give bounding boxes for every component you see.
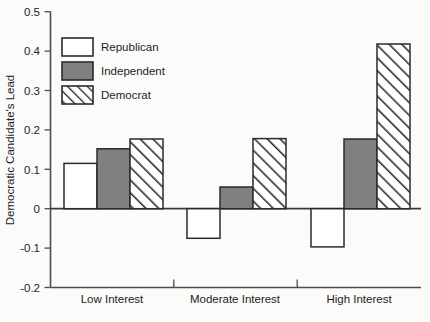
bar-moderate-interest-independent	[220, 187, 253, 209]
chart-svg: -0.2 -0.1 0 0.1 0.2 0.3 0.4 0.5 Democrat…	[0, 0, 430, 322]
bar-low-interest-republican	[64, 163, 97, 208]
y-tick-label: 0.4	[24, 45, 41, 57]
bar-high-interest-republican	[311, 209, 344, 247]
bar-moderate-interest-democrat	[253, 139, 286, 209]
y-tick-label: 0.3	[24, 85, 40, 97]
bar-low-interest-independent	[97, 149, 130, 209]
legend-swatch-independent	[62, 62, 93, 80]
bar-high-interest-independent	[344, 139, 377, 209]
x-category-label-high-interest: High Interest	[326, 293, 392, 305]
legend-label-independent: Independent	[101, 65, 166, 77]
y-tick-label: -0.1	[20, 242, 40, 254]
legend-label-republican: Republican	[101, 41, 159, 53]
bar-high-interest-democrat	[377, 44, 410, 209]
y-tick-label: -0.2	[20, 282, 40, 294]
bar-chart: -0.2 -0.1 0 0.1 0.2 0.3 0.4 0.5 Democrat…	[0, 0, 430, 322]
bar-low-interest-democrat	[130, 139, 163, 209]
legend-label-democrat: Democrat	[101, 89, 152, 101]
legend-swatch-republican	[62, 38, 93, 56]
y-axis-title: Democratic Candidate's Lead	[4, 75, 16, 226]
x-category-label-low-interest: Low Interest	[81, 293, 144, 305]
bar-moderate-interest-republican	[187, 209, 220, 239]
y-tick-label: 0.5	[24, 6, 40, 18]
legend: Republican Independent Democrat	[62, 38, 166, 104]
y-tick-label: 0.1	[24, 164, 40, 176]
y-tick-label: 0.2	[24, 124, 40, 136]
y-tick-label: 0	[34, 203, 40, 215]
x-category-label-moderate-interest: Moderate Interest	[190, 293, 281, 305]
legend-swatch-democrat	[62, 86, 93, 104]
